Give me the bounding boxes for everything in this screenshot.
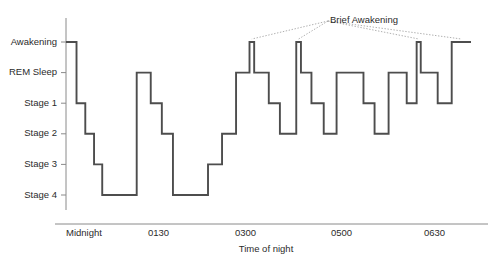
hypnogram-chart: AwakeningREM SleepStage 1Stage 2Stage 3S… [0, 0, 490, 266]
hypnogram-figure: AwakeningREM SleepStage 1Stage 2Stage 3S… [0, 0, 490, 266]
y-axis-label-stage-2: Stage 2 [24, 127, 57, 138]
sleep-stage-trace [66, 42, 471, 195]
x-axis-label-0130: 0130 [148, 227, 169, 238]
brief-awakening-annotation: Brief Awakening [252, 14, 462, 39]
x-axis-title: Time of night [239, 243, 294, 254]
y-axis-label-rem-sleep: REM Sleep [9, 66, 57, 77]
y-axis-label-stage-1: Stage 1 [24, 97, 57, 108]
y-axis-labels: AwakeningREM SleepStage 1Stage 2Stage 3S… [9, 36, 57, 200]
y-axis-label-awakening: Awakening [11, 36, 57, 47]
x-axis: Midnight0130030005000630 Time of night [55, 224, 488, 254]
y-axis-label-stage-3: Stage 3 [24, 158, 57, 169]
annotation-label: Brief Awakening [330, 14, 398, 25]
x-axis-labels: Midnight0130030005000630 [66, 227, 445, 238]
y-axis: AwakeningREM SleepStage 1Stage 2Stage 3S… [9, 18, 66, 210]
y-axis-ticks [61, 42, 66, 195]
annotation-leader-line-1 [252, 21, 328, 39]
annotation-leader-line-2 [299, 21, 328, 39]
x-axis-label-0300: 0300 [235, 227, 256, 238]
y-axis-label-stage-4: Stage 4 [24, 189, 57, 200]
x-axis-label-0630: 0630 [424, 227, 445, 238]
x-axis-label-midnight: Midnight [66, 227, 102, 238]
x-axis-label-0500: 0500 [331, 227, 352, 238]
